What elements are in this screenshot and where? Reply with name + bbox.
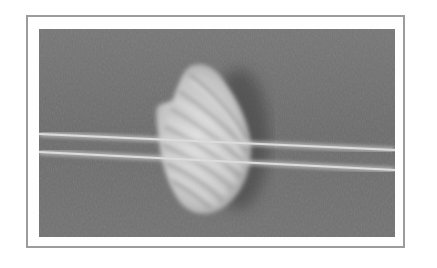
shell-photo-svg	[39, 29, 395, 237]
shell-photo	[39, 29, 395, 237]
